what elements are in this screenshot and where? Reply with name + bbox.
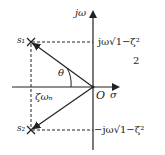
origin-label: O (96, 90, 105, 101)
s1-imag-label: jω√1−ζ² (98, 37, 140, 47)
s2-imag-label: −jω√1−ζ² (94, 125, 144, 135)
zeta-omega-n-label: ζωₙ (35, 92, 53, 102)
imaginary-axis-label: jω (75, 8, 86, 18)
origin-dot (92, 86, 95, 89)
theta-label: θ (58, 68, 64, 78)
s-plane-diagram: jω O σ s₁ s₂ jω√1−ζ² 2 −jω√1−ζ² θ ζωₙ (0, 0, 165, 155)
s1-imag-extra: 2 (133, 56, 139, 66)
pole-s1-label: s₁ (17, 36, 25, 45)
pole-s2-label: s₂ (17, 124, 25, 133)
vector-to-s1 (34, 44, 93, 87)
real-axis-label: σ (110, 90, 117, 100)
